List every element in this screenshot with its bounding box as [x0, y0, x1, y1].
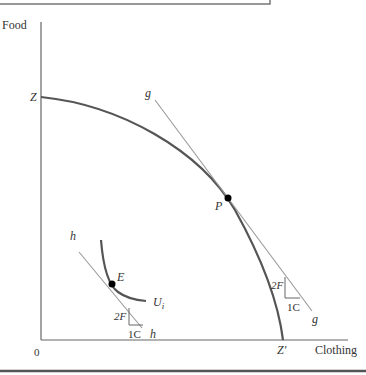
- y-axis-label: Food: [2, 18, 27, 32]
- z-label: Z: [30, 90, 37, 104]
- h-rise-label: 2F: [114, 310, 127, 322]
- origin-label: 0: [34, 346, 40, 358]
- h-top-label: h: [70, 229, 76, 243]
- point-p: [225, 195, 232, 202]
- e-label: E: [116, 270, 125, 284]
- indifference-label: Ui: [153, 295, 165, 311]
- g-rise-label: 2F: [271, 279, 284, 291]
- slope-triangle-h: [129, 308, 143, 325]
- g-run-label: 1C: [287, 301, 300, 313]
- p-label: P: [214, 199, 223, 213]
- z-prime-label: Z′: [277, 343, 287, 357]
- h-bottom-label: h: [150, 327, 156, 341]
- trade-diagram: Food Clothing 0 Z Z′ g g P 2F 1C h h E 2…: [0, 0, 366, 375]
- tangent-line-h: [79, 252, 142, 328]
- x-axis-label: Clothing: [315, 343, 357, 357]
- tangent-line-g: [155, 100, 312, 311]
- slope-triangle-g: [285, 277, 300, 298]
- g-top-label: g: [145, 86, 151, 100]
- point-e: [109, 281, 116, 288]
- h-run-label: 1C: [128, 328, 141, 340]
- g-bottom-label: g: [312, 312, 318, 326]
- top-frame: [0, 0, 270, 4]
